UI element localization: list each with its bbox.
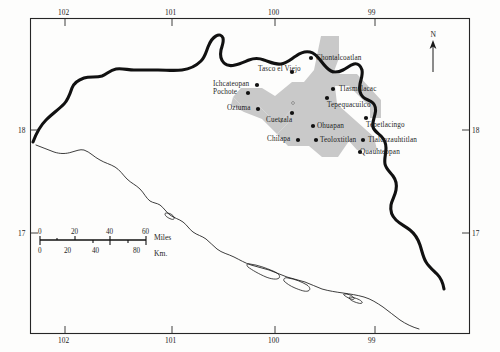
north-label: N xyxy=(431,30,436,39)
town-dot xyxy=(314,138,318,142)
town-label: Chontalcoatlan xyxy=(316,55,362,62)
latitude-label-left: 18 xyxy=(18,126,25,135)
town-dot xyxy=(331,87,335,91)
town-label: Chilapa xyxy=(267,136,290,143)
town-dot xyxy=(364,116,368,120)
town-label: Tlasmalacac xyxy=(339,86,377,93)
latitude-label-left: 17 xyxy=(18,229,25,238)
longitude-label-top: 102 xyxy=(58,8,69,17)
map-frame xyxy=(31,19,470,334)
scale-tick-miles: 0 xyxy=(38,228,42,236)
latitude-label-right: 18 xyxy=(472,126,479,135)
town-label: Quauhteopan xyxy=(360,149,400,156)
town-label: Tlalcozauhtitlan xyxy=(368,137,417,144)
town-dot xyxy=(256,107,260,111)
north-arrow-icon xyxy=(430,40,437,72)
scale-tick-miles: 60 xyxy=(142,228,149,236)
town-label: Oztuma xyxy=(227,105,251,112)
coastline xyxy=(36,145,419,329)
town-dot xyxy=(361,138,365,142)
latitude-label-right: 17 xyxy=(472,229,479,238)
longitude-label-top: 99 xyxy=(368,8,375,17)
longitude-label-bottom: 100 xyxy=(268,336,279,345)
scale-unit-miles: Miles xyxy=(154,233,171,242)
town-label: Pochote xyxy=(213,89,237,96)
town-dot xyxy=(325,96,329,100)
town-dot xyxy=(246,91,250,95)
town-label: Teoloxtitlan xyxy=(320,137,356,144)
scale-tick-km: 40 xyxy=(92,247,99,255)
town-dot xyxy=(290,111,294,115)
axis-ticks xyxy=(30,18,470,334)
scale-tick-km: 0 xyxy=(38,247,42,255)
longitude-label-bottom: 99 xyxy=(368,336,375,345)
town-dot xyxy=(255,83,259,87)
town-label: Cuetzala xyxy=(266,117,292,124)
town-dot xyxy=(311,124,315,128)
scale-tick-km: 80 xyxy=(133,247,140,255)
town-label: Tepetlacingo xyxy=(366,122,405,129)
scale-bar xyxy=(40,236,146,245)
minor-marker xyxy=(292,102,295,105)
map-canvas xyxy=(0,0,500,352)
town-label: Ohuapan xyxy=(317,123,344,130)
longitude-label-top: 100 xyxy=(268,8,279,17)
town-dot xyxy=(296,138,300,142)
longitude-label-top: 101 xyxy=(165,8,176,17)
town-label: Tasco el Viejo xyxy=(258,66,301,73)
town-label: Tepequacuilco xyxy=(327,102,371,109)
map-figure: ChontalcoatlanTasco el ViejoIchcateopanP… xyxy=(0,0,500,352)
longitude-label-bottom: 101 xyxy=(165,336,176,345)
scale-tick-miles: 40 xyxy=(106,228,113,236)
town-dot xyxy=(309,56,313,60)
scale-tick-miles: 20 xyxy=(71,228,78,236)
scale-unit-km: Km. xyxy=(154,249,167,258)
longitude-label-bottom: 102 xyxy=(58,336,69,345)
scale-tick-km: 20 xyxy=(64,247,71,255)
